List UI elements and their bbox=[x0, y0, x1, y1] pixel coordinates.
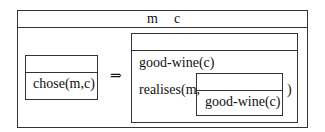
condition-good-wine: good-wine(c) bbox=[139, 55, 214, 71]
realises-suffix: ) bbox=[287, 82, 292, 98]
nested-drs-header bbox=[197, 74, 282, 91]
antecedent-drs-header bbox=[26, 56, 97, 73]
header-var-c: c bbox=[174, 11, 180, 27]
condition-chose: chose(m,c) bbox=[33, 76, 95, 92]
realises-prefix: realises(m, bbox=[139, 82, 200, 98]
outer-drs-box: m c chose(m,c) ⇒ good-wine(c) realises(m… bbox=[17, 10, 308, 128]
antecedent-drs-box: chose(m,c) bbox=[25, 55, 98, 100]
outer-drs-header: m c bbox=[18, 11, 307, 28]
header-var-m: m bbox=[147, 11, 158, 27]
nested-drs-box: good-wine(c) bbox=[196, 73, 283, 116]
implication-arrow: ⇒ bbox=[110, 68, 122, 84]
consequent-drs-box: good-wine(c) realises(m, good-wine(c) ) bbox=[131, 33, 298, 123]
nested-condition-good-wine: good-wine(c) bbox=[205, 94, 280, 110]
consequent-drs-header bbox=[132, 34, 297, 51]
